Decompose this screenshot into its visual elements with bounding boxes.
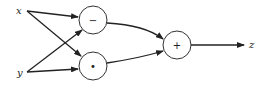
edge-sub-to-add <box>107 23 163 39</box>
subtract-symbol: − <box>89 15 97 26</box>
input-label-x: x <box>16 5 22 16</box>
node-multiply: • <box>79 52 107 80</box>
multiply-symbol: • <box>90 61 96 72</box>
edge-y-to-mul <box>27 69 78 72</box>
edge-y-to-sub <box>27 30 82 72</box>
edge-mul-to-add <box>107 51 163 63</box>
node-subtract: − <box>79 6 107 34</box>
edge-x-to-sub <box>27 11 78 17</box>
edge-x-to-mul <box>27 11 81 56</box>
node-add: + <box>163 31 191 59</box>
add-symbol: + <box>173 40 181 51</box>
input-label-y: y <box>16 67 23 78</box>
edges <box>27 11 244 72</box>
computation-graph: − • + x y z <box>0 0 264 86</box>
output-label-z: z <box>248 39 255 50</box>
